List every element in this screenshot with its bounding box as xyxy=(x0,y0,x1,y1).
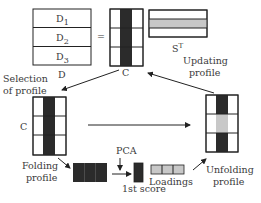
selection-arrow xyxy=(62,70,119,90)
equals-sign: = xyxy=(97,31,105,42)
folding-label-line2: profile xyxy=(26,172,58,183)
matrix-c-left-name: C xyxy=(20,121,27,132)
matrix-d-name: D xyxy=(58,69,66,80)
selection-label-line1: Selection xyxy=(3,73,48,84)
matrix-d: D1 D2 D3 xyxy=(33,9,91,65)
loadings-label: Loadings xyxy=(149,176,193,187)
unfolding-arrow xyxy=(193,159,206,170)
matrix-st-name: ST xyxy=(172,42,184,54)
unfolding-label-line2: profile xyxy=(213,176,245,187)
matrix-c-left xyxy=(33,97,66,155)
matrix-st xyxy=(149,10,207,37)
unfolding-label-line1: Unfolding xyxy=(206,164,254,175)
matrix-c-updated xyxy=(206,95,238,152)
selection-label-line2: of profile xyxy=(3,85,47,96)
pca-label: PCA xyxy=(116,145,137,156)
updating-label-line2: profile xyxy=(189,67,221,78)
folding-arrow xyxy=(58,158,70,168)
mcr-als-diagram: D1 D2 D3 D = C ST Selection of profile U… xyxy=(0,0,261,203)
loadings xyxy=(151,165,184,174)
matrix-c-top-name: C xyxy=(122,67,129,78)
folding-label-line1: Folding xyxy=(22,160,58,171)
updating-label-line1: Updating xyxy=(183,55,228,66)
folded-profile xyxy=(73,163,107,182)
first-score xyxy=(134,163,143,182)
matrix-c-top xyxy=(110,9,143,66)
